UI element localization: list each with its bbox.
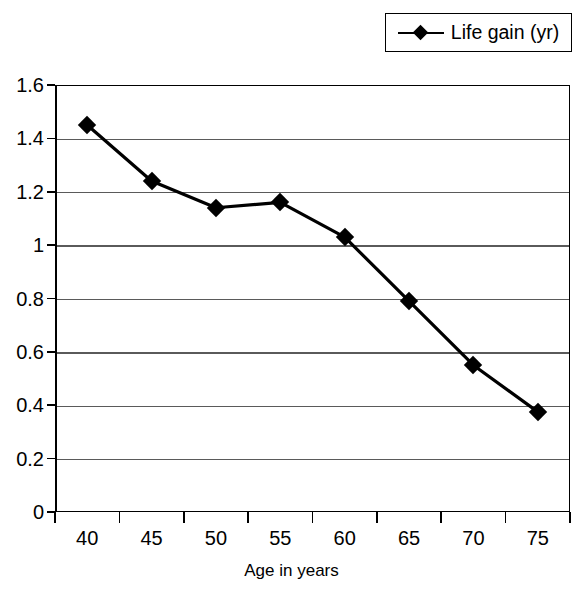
line-chart: Life gain (yr) 00.20.40.60.811.21.41.6 4… bbox=[0, 0, 583, 591]
x-axis-title: Age in years bbox=[0, 562, 583, 579]
y-axis-tick-label: 0.6 bbox=[0, 342, 44, 362]
x-axis-tick bbox=[312, 512, 314, 523]
y-axis-tick bbox=[47, 191, 55, 193]
x-axis-tick bbox=[569, 512, 571, 523]
y-axis-tick bbox=[47, 84, 55, 86]
y-axis-tick-label: 1.4 bbox=[0, 128, 44, 148]
x-axis-tick bbox=[54, 512, 56, 523]
x-axis-tick bbox=[505, 512, 507, 523]
y-axis-tick-label: 0.4 bbox=[0, 395, 44, 415]
y-axis-tick-label: 0.8 bbox=[0, 289, 44, 309]
x-axis-tick-label: 60 bbox=[334, 528, 356, 548]
legend-entry-life-gain: Life gain (yr) bbox=[398, 23, 559, 43]
x-axis-tick-label: 75 bbox=[527, 528, 549, 548]
y-axis-tick bbox=[47, 458, 55, 460]
x-axis-tick bbox=[119, 512, 121, 523]
legend-diamond-marker-icon bbox=[398, 25, 444, 41]
x-axis-tick-label: 50 bbox=[205, 528, 227, 548]
legend-entry-label: Life gain (yr) bbox=[451, 23, 559, 43]
x-axis-tick bbox=[440, 512, 442, 523]
y-axis-tick-label: 0 bbox=[0, 502, 44, 522]
y-axis-tick-label: 0.2 bbox=[0, 449, 44, 469]
x-axis-tick-label: 65 bbox=[398, 528, 420, 548]
x-axis-tick bbox=[247, 512, 249, 523]
series-life-gain-line bbox=[55, 85, 570, 512]
y-axis-tick bbox=[47, 298, 55, 300]
chart-legend: Life gain (yr) bbox=[385, 13, 572, 52]
x-axis-tick bbox=[183, 512, 185, 523]
y-axis-tick-label: 1.6 bbox=[0, 75, 44, 95]
y-axis-tick-label: 1.2 bbox=[0, 182, 44, 202]
x-axis-tick-label: 70 bbox=[462, 528, 484, 548]
y-axis-tick bbox=[47, 138, 55, 140]
y-axis-tick bbox=[47, 244, 55, 246]
y-axis-tick-label: 1 bbox=[0, 235, 44, 255]
x-axis-tick-label: 55 bbox=[269, 528, 291, 548]
x-axis-tick bbox=[376, 512, 378, 523]
x-axis-tick-label: 45 bbox=[140, 528, 162, 548]
y-axis-tick bbox=[47, 351, 55, 353]
y-axis-tick bbox=[47, 404, 55, 406]
x-axis-tick-label: 40 bbox=[76, 528, 98, 548]
